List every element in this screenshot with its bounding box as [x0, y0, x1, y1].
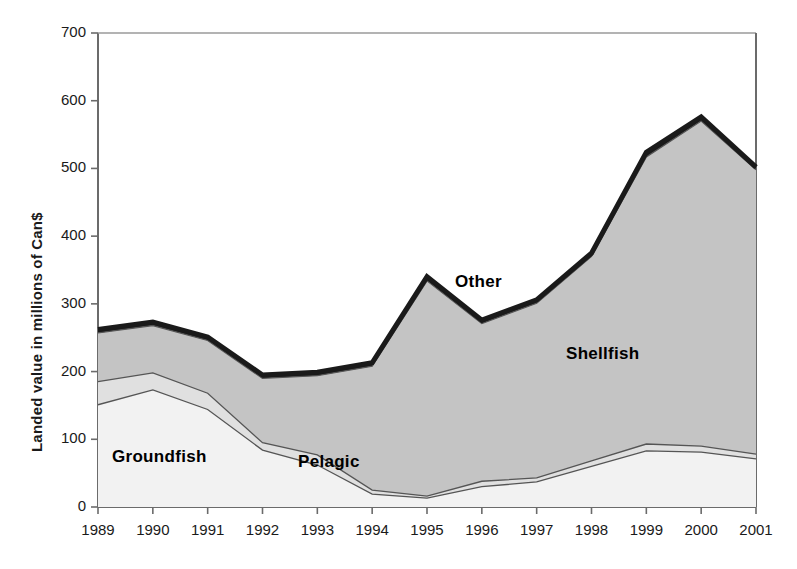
series-label-groundfish: Groundfish: [112, 447, 207, 467]
y-tick-label: 400: [40, 226, 86, 243]
x-tick-label: 1998: [564, 521, 620, 538]
y-tick-label: 300: [40, 294, 86, 311]
y-tick-label: 0: [40, 497, 86, 514]
x-tick-label: 1999: [618, 521, 674, 538]
y-tick-label: 600: [40, 91, 86, 108]
x-tick-label: 1997: [509, 521, 565, 538]
y-tick-label: 500: [40, 158, 86, 175]
x-tick-label: 1994: [344, 521, 400, 538]
x-tick-label: 1991: [180, 521, 236, 538]
x-tick-label: 1993: [289, 521, 345, 538]
x-tick-label: 2000: [673, 521, 729, 538]
series-label-other: Other: [455, 272, 502, 292]
y-tick-label: 200: [40, 362, 86, 379]
series-label-pelagic: Pelagic: [298, 452, 360, 472]
series-label-shellfish: Shellfish: [566, 344, 640, 364]
x-tick-label: 1989: [70, 521, 126, 538]
x-tick-label: 2001: [728, 521, 784, 538]
x-tick-label: 1996: [454, 521, 510, 538]
x-tick-label: 1990: [125, 521, 181, 538]
y-tick-label: 700: [40, 23, 86, 40]
x-tick-label: 1995: [399, 521, 455, 538]
y-axis-title: Landed value in millions of Can$: [28, 212, 45, 452]
x-tick-label: 1992: [235, 521, 291, 538]
x-tick-marks: [98, 507, 756, 514]
area-chart-plot: [0, 0, 797, 569]
y-tick-label: 100: [40, 429, 86, 446]
chart-container: Landed value in millions of Can$ 0100200…: [0, 0, 797, 569]
y-tick-marks: [91, 33, 98, 507]
